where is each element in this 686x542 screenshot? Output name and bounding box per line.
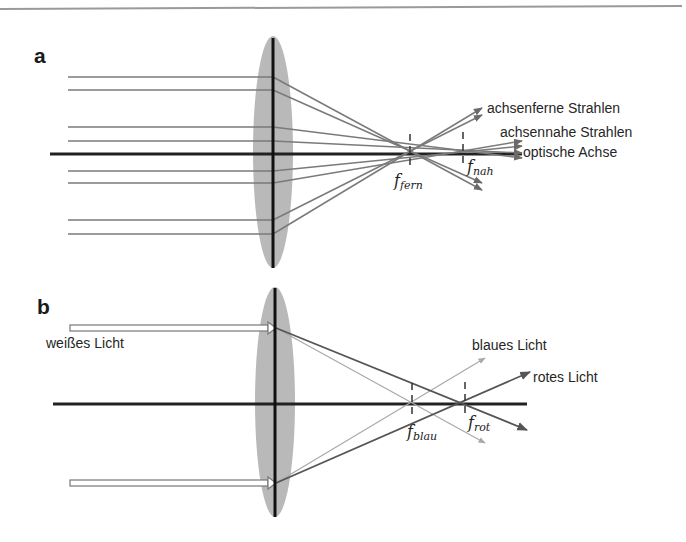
white-light-beam-bottom <box>70 477 276 489</box>
panel-a-letter: a <box>34 44 46 67</box>
white-light-beam-top <box>70 322 276 334</box>
label-far-rays: achsenferne Strahlen <box>487 100 620 116</box>
panel-b-chromatic-aberration: b fblau frot weißes <box>37 287 598 517</box>
panel-a-spherical-aberration: a <box>34 36 632 268</box>
label-optical-axis: optische Achse <box>523 144 617 160</box>
focal-label-rot: frot <box>467 413 491 434</box>
label-near-rays: achsennahe Strahlen <box>500 124 632 140</box>
lens-aberration-diagram: a <box>0 0 686 542</box>
focal-label-blau: fblau <box>406 422 437 443</box>
panel-b-letter: b <box>37 295 50 318</box>
label-blue-light: blaues Licht <box>472 337 547 353</box>
top-frame-line <box>0 6 682 9</box>
focal-label-nah: fnah <box>466 157 494 178</box>
focal-label-fern: ffern <box>393 171 423 192</box>
label-white-light: weißes Licht <box>45 335 124 351</box>
label-red-light: rotes Licht <box>533 369 598 385</box>
